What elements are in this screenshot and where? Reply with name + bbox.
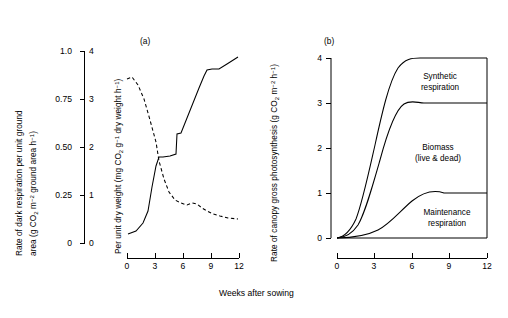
panel-b-xtick-9 [449, 253, 450, 258]
panel-b-xtick-3 [374, 253, 375, 258]
panel-b-xlabel-12: 12 [479, 261, 495, 271]
figure-xlabel: Weeks after sowing [219, 288, 294, 298]
panel-b-region-label-biomass: Biomass (live & dead) [393, 143, 483, 164]
panel-b-xlabel-0: 0 [329, 261, 345, 271]
panel-b-region-label-synthetic-line2: respiration [400, 83, 480, 94]
panel-b-region-label-synthetic: Synthetic respiration [400, 72, 480, 93]
figure-canvas: Rate of dark respiration per unit ground… [0, 0, 508, 318]
panel-b-region-label-biomass-line2: (live & dead) [393, 154, 483, 165]
panel-b-xlabel-3: 3 [366, 261, 382, 271]
panel-b-region-label-maintenance-line1: Maintenance [408, 208, 486, 219]
panel-b-region-label-synthetic-line1: Synthetic [400, 72, 480, 83]
panel-b-xtick-6 [412, 253, 413, 258]
panel-b-xtick-0 [337, 253, 338, 258]
panel-b-region-label-maintenance: Maintenance respiration [408, 208, 486, 229]
panel-b-region-label-maintenance-line2: respiration [408, 219, 486, 230]
panel-b-xaxis-line [337, 258, 487, 259]
panel-b-xlabel-6: 6 [404, 261, 420, 271]
panel-b-region-label-biomass-line1: Biomass [393, 143, 483, 154]
panel-b-xlabel-9: 9 [441, 261, 457, 271]
panel-b-xtick-12 [487, 253, 488, 258]
